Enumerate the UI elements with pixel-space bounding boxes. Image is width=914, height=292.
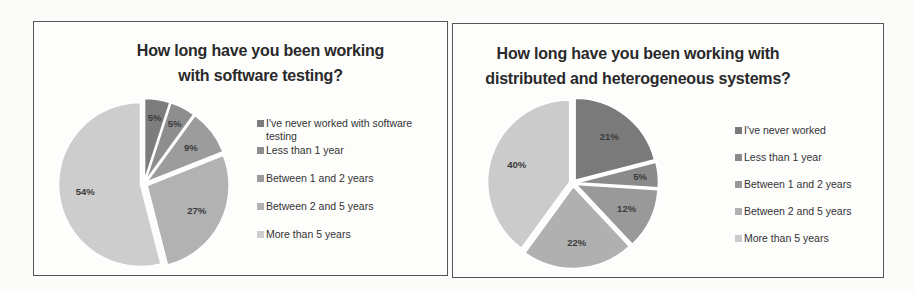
legend-item-less-than-1: Less than 1 year [734,151,874,164]
legend-label: I've never worked [744,124,826,136]
pie-slice-label: 5% [168,118,182,129]
pie-slice-label: 9% [184,142,198,153]
legend-swatch [257,203,264,210]
legend-item-more-than-5: More than 5 years [256,228,436,241]
legend-swatch [257,147,264,154]
legend-label: More than 5 years [744,232,829,244]
pie-slice-label: 5% [148,112,162,123]
legend-label: I've never worked with software testing [266,117,412,142]
legend-swatch [257,231,264,238]
legend-swatch [735,208,742,215]
pie-slice-label: 54% [76,186,96,197]
pie-slice-label: 22% [567,237,587,248]
legend-item-never: I've never worked [734,124,874,137]
legend-label: Less than 1 year [266,144,344,156]
legend: I've never worked Less than 1 year Betwe… [734,124,874,259]
pie-slice-label: 5% [633,171,647,182]
pie-slice-label: 12% [617,203,637,214]
pie-slice-label: 40% [507,159,527,170]
legend-label: Between 1 and 2 years [266,172,373,184]
legend-label: Less than 1 year [744,151,822,163]
legend-swatch [735,127,742,134]
legend-swatch [735,181,742,188]
legend-item-1-to-2: Between 1 and 2 years [256,172,436,185]
legend-item-never: I've never worked with software testing [256,117,436,143]
legend-item-2-to-5: Between 2 and 5 years [256,200,436,213]
legend-label: More than 5 years [266,228,351,240]
legend-item-1-to-2: Between 1 and 2 years [734,178,874,191]
legend: I've never worked with software testing … [256,117,436,256]
chart-distributed-systems: How long have you been working with dist… [452,23,884,278]
legend-label: Between 2 and 5 years [744,205,851,217]
pie-slice-label: 21% [600,131,620,142]
legend-swatch [735,235,742,242]
legend-swatch [257,175,264,182]
chart-software-testing: How long have you been working with soft… [33,21,448,276]
legend-swatch [735,154,742,161]
legend-item-2-to-5: Between 2 and 5 years [734,205,874,218]
pie-slice-label: 27% [187,205,207,216]
legend-swatch [257,120,264,127]
legend-label: Between 2 and 5 years [266,200,373,212]
legend-item-more-than-5: More than 5 years [734,232,874,245]
legend-label: Between 1 and 2 years [744,178,851,190]
legend-item-less-than-1: Less than 1 year [256,144,436,157]
